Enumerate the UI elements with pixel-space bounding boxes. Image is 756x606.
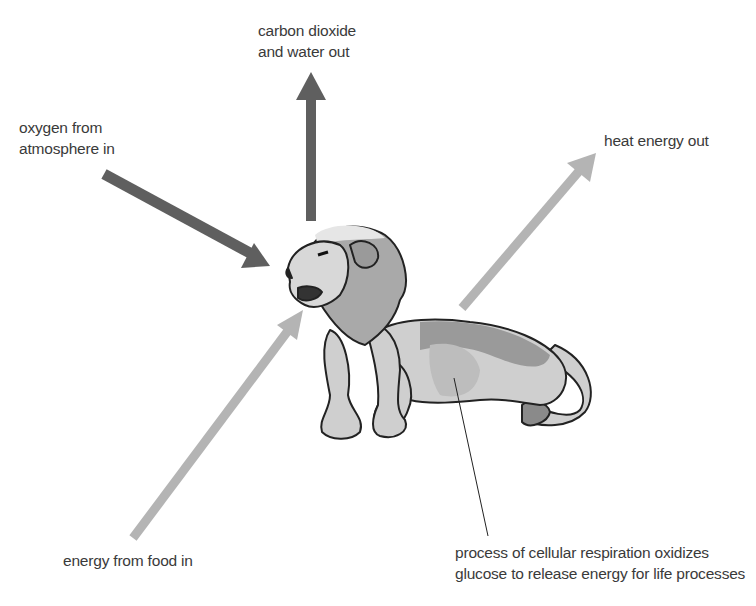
food-in-label: energy from food in xyxy=(63,550,193,571)
co2-out-label-line2: and water out xyxy=(258,41,356,62)
respiration-label: process of cellular respiration oxidizes… xyxy=(455,542,745,584)
lion-illustration xyxy=(286,226,591,439)
oxygen-in-label: oxygen from atmosphere in xyxy=(19,117,115,159)
co2-out-label-line1: carbon dioxide xyxy=(258,20,356,41)
respiration-label-line1: process of cellular respiration oxidizes xyxy=(455,542,745,563)
respiration-diagram xyxy=(0,0,756,606)
respiration-label-line2: glucose to release energy for life proce… xyxy=(455,563,745,584)
co2-out-label: carbon dioxide and water out xyxy=(258,20,356,62)
oxygen-in-arrow xyxy=(104,174,270,268)
heat-out-label: heat energy out xyxy=(604,130,709,151)
oxygen-in-label-line2: atmosphere in xyxy=(19,138,115,159)
oxygen-in-label-line1: oxygen from xyxy=(19,117,115,138)
heat-out-arrow xyxy=(462,153,596,308)
food-in-arrow xyxy=(133,310,303,538)
co2-out-arrow xyxy=(296,72,326,221)
